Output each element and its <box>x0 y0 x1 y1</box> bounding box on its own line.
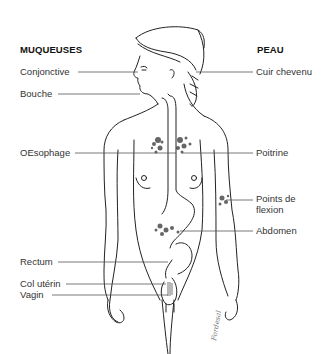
label-vagin: Vagin <box>20 289 44 300</box>
label-points-de-flexion-line1: Points de <box>256 193 296 204</box>
label-cuir-chevelu: Cuir chevenu <box>256 66 312 77</box>
label-col-uterin: Col utérin <box>20 278 61 289</box>
label-points-de-flexion-line2: flexion <box>256 204 283 215</box>
header-peau: PEAU <box>257 44 284 55</box>
diagram-canvas: MUQUEUSES PEAU Conjonctive Bouche OEsoph… <box>0 0 331 354</box>
label-points-de-flexion: Points de flexion <box>256 193 296 215</box>
label-oesophage: OEsophage <box>20 147 70 158</box>
label-abdomen: Abdomen <box>256 225 297 236</box>
label-poitrine: Poitrine <box>256 147 288 158</box>
label-rectum: Rectum <box>20 256 53 267</box>
label-bouche: Bouche <box>20 88 52 99</box>
label-conjonctive: Conjonctive <box>20 66 70 77</box>
header-muqueuses: MUQUEUSES <box>20 44 82 55</box>
